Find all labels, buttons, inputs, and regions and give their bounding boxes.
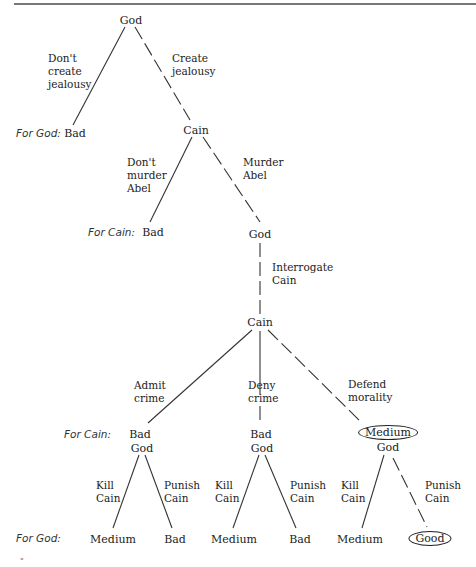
payoff-defend-cain-circled: Medium	[358, 425, 418, 440]
payoff-label-for-cain-2: For Cain:	[64, 428, 111, 440]
node-god-deny: God	[251, 442, 273, 455]
action-defend-punish: Punish Cain	[425, 479, 461, 505]
payoff-admit-kill: Medium	[90, 533, 136, 546]
payoff-label-for-god-2: For God:	[16, 532, 61, 544]
edge-defend	[268, 330, 361, 422]
payoff-defend-kill: Medium	[337, 533, 383, 546]
payoff-deny-cain: Bad	[250, 428, 272, 441]
payoff-label-for-cain-1: For Cain:	[88, 226, 135, 238]
action-defend-kill: Kill Cain	[341, 479, 365, 505]
node-god-2: God	[249, 228, 271, 241]
payoff-admit-punish: Bad	[164, 533, 186, 546]
edge-defend-punish	[393, 458, 427, 527]
action-deny-punish: Punish Cain	[290, 479, 326, 505]
action-deny-kill: Kill Cain	[215, 479, 239, 505]
action-admit: Admit crime	[134, 379, 166, 405]
payoff-defend-punish-circled: Good	[408, 531, 451, 546]
node-cain-2: Cain	[247, 316, 273, 329]
payoff-label-for-god-1: For God:	[16, 127, 61, 139]
action-murder: Murder Abel	[243, 156, 284, 182]
action-dont-create: Don't create jealousy	[48, 52, 92, 91]
payoff-deny-kill: Medium	[211, 533, 257, 546]
action-defend: Defend morality	[348, 378, 392, 404]
footnote-mark: "	[20, 556, 24, 565]
action-dont-murder: Don't murder Abel	[127, 156, 167, 195]
node-god-admit: God	[131, 442, 153, 455]
action-create: Create jealousy	[172, 52, 216, 78]
edge-admit	[148, 330, 252, 423]
node-cain-1: Cain	[183, 124, 209, 137]
action-interrogate: Interrogate Cain	[272, 261, 333, 287]
payoff-no-jealousy: Bad	[64, 127, 86, 140]
payoff-deny-punish: Bad	[289, 533, 311, 546]
node-god-root: God	[120, 14, 142, 27]
payoff-admit-cain: Bad	[129, 428, 151, 441]
payoff-no-murder: Bad	[142, 226, 164, 239]
action-deny: Deny crime	[248, 379, 278, 405]
action-admit-kill: Kill Cain	[96, 479, 120, 505]
action-admit-punish: Punish Cain	[164, 479, 200, 505]
node-god-defend: God	[377, 441, 399, 454]
